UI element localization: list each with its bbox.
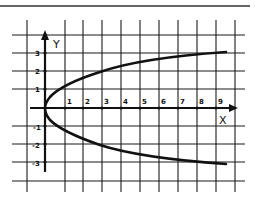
- x-tick-label: 9: [218, 98, 223, 106]
- y-tick-label: -3: [32, 160, 40, 168]
- y-tick-label: 2: [35, 68, 40, 76]
- x-axis-arrow-icon: [229, 104, 238, 112]
- grid: [12, 20, 245, 192]
- x-tick-label: 5: [142, 98, 147, 106]
- parabola-chart: 1 2 3 4 5 6 7 8 9 3 2 1 -1 -2 -3 Y X: [0, 0, 255, 203]
- x-tick-label: 6: [161, 98, 166, 106]
- x-tick-label: 2: [85, 98, 90, 106]
- x-tick-label: 7: [180, 98, 185, 106]
- y-axis-label: Y: [52, 38, 60, 51]
- y-tick-label: -2: [32, 142, 40, 150]
- x-axis-label: X: [219, 114, 227, 127]
- y-tick-label: 3: [35, 50, 40, 58]
- x-tick-label: 3: [104, 98, 109, 106]
- x-tick-label: 1: [67, 98, 72, 106]
- x-tick-label: 4: [123, 98, 128, 106]
- y-tick-label: 1: [35, 86, 40, 94]
- y-tick-label: -1: [33, 124, 41, 132]
- x-tick-label: 8: [199, 98, 204, 106]
